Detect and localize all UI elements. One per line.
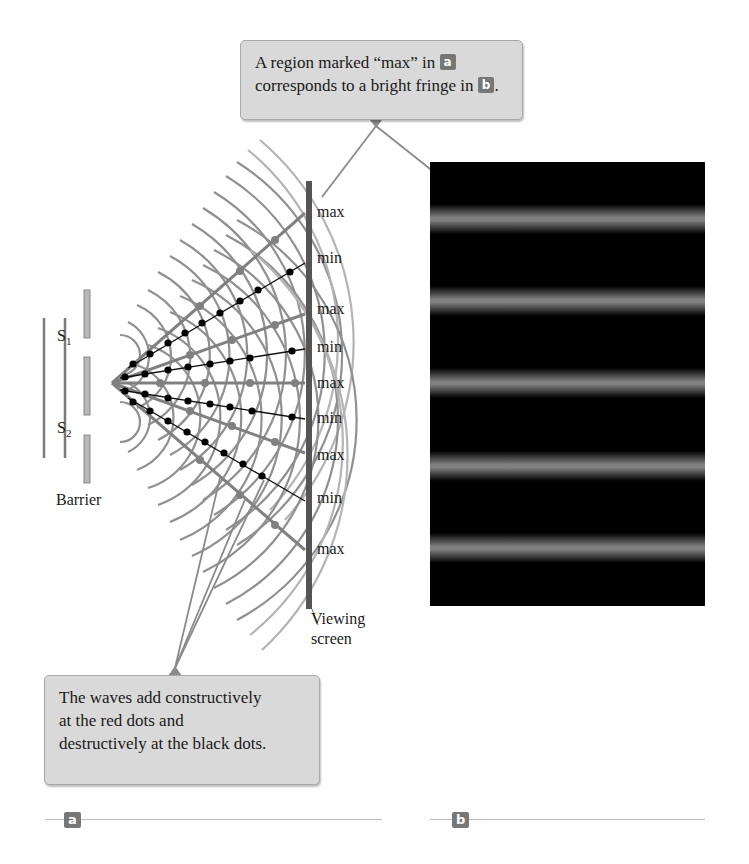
panel-a-rule: [45, 819, 382, 820]
panel-a-label-badge: a: [64, 812, 81, 828]
screen-label: max: [317, 204, 345, 220]
screen-label: min: [317, 250, 342, 266]
barrier-segment: [84, 290, 90, 338]
source-label-s2: S2: [57, 420, 71, 441]
bright-fringe: [430, 368, 705, 398]
bottom-callout-line: destructively at the black dots.: [59, 732, 305, 755]
screen-label: min: [317, 410, 342, 426]
screen-label: max: [317, 375, 345, 391]
screen-label: min: [317, 490, 342, 506]
screen-label: max: [317, 541, 345, 557]
viewing-screen-label-line1: Viewing: [311, 611, 365, 627]
panel-a-badge: a: [440, 54, 456, 70]
pointer-line-to-max: [322, 126, 376, 197]
bright-fringe: [430, 204, 705, 234]
screen-label: max: [317, 447, 345, 463]
panel-b-label: b: [452, 812, 469, 830]
barrier-segment: [84, 435, 90, 483]
screen-label: min: [317, 339, 342, 355]
bottom-callout: The waves add constructively at the red …: [44, 675, 320, 785]
bottom-callout-line: The waves add constructively: [59, 686, 305, 709]
viewing-screen-label-line2: screen: [311, 631, 352, 647]
bright-fringe: [430, 286, 705, 316]
viewing-screen: [306, 181, 312, 609]
top-callout: A region marked “max” in a corresponds t…: [240, 40, 523, 120]
pointer-line-red-dot-3: [175, 480, 264, 668]
panel-b-label-badge: b: [452, 812, 469, 828]
barrier-segment: [84, 357, 90, 415]
fringe-pattern: [430, 162, 705, 606]
top-callout-line1: A region marked “max” in: [255, 53, 435, 72]
barrier-label: Barrier: [56, 492, 101, 508]
bright-fringe: [430, 533, 705, 563]
top-callout-period: .: [494, 76, 498, 95]
screen-label: max: [317, 301, 345, 317]
bottom-callout-line: at the red dots and: [59, 709, 305, 732]
panel-b-rule: [430, 819, 705, 820]
panel-a-label: a: [64, 812, 81, 830]
top-callout-line2: corresponds to a bright fringe in: [255, 76, 474, 95]
source-label-s1: S1: [57, 328, 71, 349]
bright-fringe: [430, 451, 705, 481]
panel-b-badge: b: [478, 77, 495, 93]
